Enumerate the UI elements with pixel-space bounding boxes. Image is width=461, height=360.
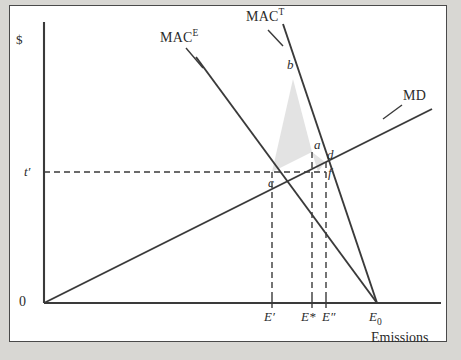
curve-label-mac-t-text: MAC	[246, 9, 279, 24]
curve-mac-t	[283, 24, 377, 303]
curve-md	[44, 109, 432, 303]
leader-mac-t	[268, 30, 283, 46]
chart-canvas	[0, 0, 461, 360]
x-tick-label-e-zero-sub: 0	[377, 317, 382, 327]
curve-label-mac-t-sup: T	[279, 7, 285, 17]
x-tick-label-e-star-text: E*	[301, 309, 315, 324]
x-tick-label-e-zero: E0	[369, 310, 382, 323]
curve-label-md-text: MD	[403, 88, 426, 103]
x-tick-label-e-zero-text: E	[369, 309, 377, 324]
x-tick-label-e-star: E*	[301, 310, 315, 323]
curve-mac-e	[196, 57, 377, 303]
curve-label-mac-e-text: MAC	[160, 30, 193, 45]
figure-root: $ 0 MACE MACT MD b a d f c t′ E′ E* E″ E…	[0, 0, 461, 360]
point-label-d: d	[327, 148, 334, 161]
point-label-b: b	[287, 58, 294, 71]
leader-mac-e	[186, 48, 203, 68]
x-tick-label-e-prime: E′	[264, 310, 275, 323]
curve-label-mac-e: MACE	[160, 31, 199, 45]
x-tick-label-e-prime-text: E′	[264, 309, 275, 324]
x-tick-label-e-double-prime: E″	[322, 310, 335, 323]
leader-md	[383, 105, 402, 119]
point-label-f: f	[328, 166, 332, 179]
curve-label-mac-t: MACT	[246, 10, 285, 24]
x-tick-label-e-double-prime-text: E″	[322, 309, 335, 324]
curve-label-md: MD	[403, 89, 426, 103]
curve-label-mac-e-sup: E	[193, 28, 199, 38]
y-axis-label: $	[16, 33, 23, 46]
point-label-c: c	[268, 176, 274, 189]
point-label-a: a	[314, 138, 321, 151]
origin-label: 0	[19, 295, 26, 309]
y-tick-label-t-prime: t′	[24, 165, 30, 178]
x-axis-label: Emissions	[371, 331, 429, 345]
